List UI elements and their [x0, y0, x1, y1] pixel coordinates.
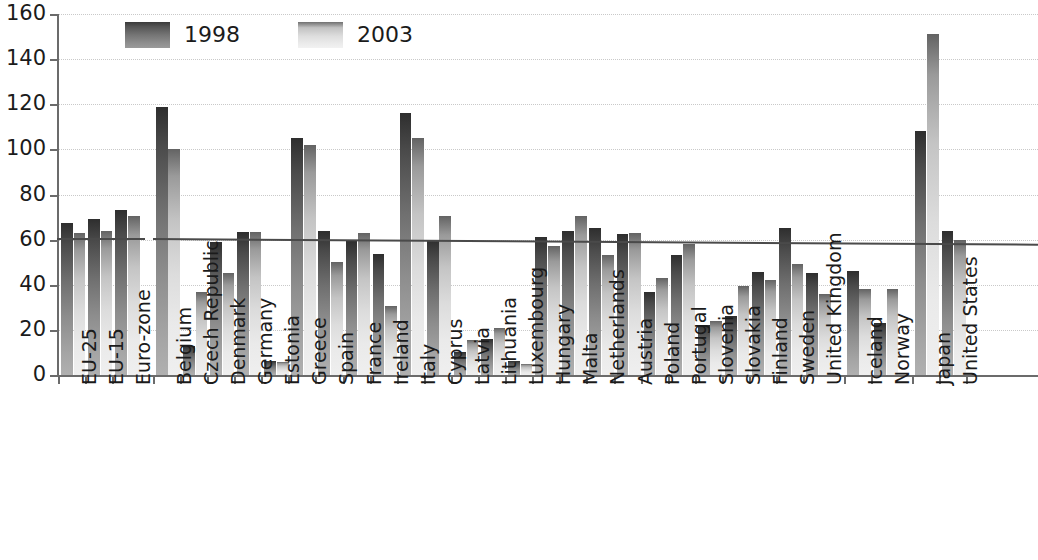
x-axis-label: Denmark: [229, 298, 248, 385]
x-axis-label: Poland: [663, 322, 682, 385]
x-axis-label: Slovenia: [717, 304, 736, 385]
legend-item-2003: 2003: [298, 22, 413, 48]
bar: [927, 34, 939, 375]
legend-item-1998: 1998: [125, 22, 240, 48]
x-axis-label: Estonia: [283, 315, 302, 385]
y-tick-mark: [50, 285, 58, 287]
x-axis-label: Greece: [310, 317, 329, 385]
x-axis-label: Japan: [934, 332, 953, 385]
x-axis-label: France: [365, 322, 384, 385]
x-axis-label: EU-15: [107, 328, 126, 385]
y-tick-mark: [50, 59, 58, 61]
x-axis-label: Belgium: [175, 307, 194, 385]
y-tick-mark: [50, 375, 58, 377]
y-tick-mark: [50, 14, 58, 16]
x-axis-label: Luxembourg: [527, 267, 546, 385]
y-tick-label: 140: [0, 48, 46, 69]
x-axis-label: EU-25: [80, 328, 99, 385]
legend-swatch-2003: [298, 22, 343, 48]
legend-swatch-1998: [125, 22, 170, 48]
x-axis-label: Slovakia: [744, 305, 763, 385]
gridline: [57, 104, 1038, 105]
gridline: [57, 195, 1038, 196]
gridline: [57, 14, 1038, 15]
bar: [156, 107, 168, 375]
x-tick-mark: [58, 375, 60, 384]
x-axis-label: Czech Republic: [202, 240, 221, 385]
bar: [412, 138, 424, 375]
legend-label-2003: 2003: [357, 24, 413, 46]
bar: [915, 131, 927, 375]
bar: [61, 223, 73, 375]
y-tick-label: 160: [0, 3, 46, 24]
y-tick-label: 80: [0, 184, 46, 205]
bar-chart: 020406080100120140160 EU-25EU-15Euro-zon…: [0, 0, 1038, 560]
x-axis-label: Spain: [337, 332, 356, 385]
y-tick-mark: [50, 149, 58, 151]
y-tick-mark: [50, 330, 58, 332]
x-axis-label: Italy: [419, 344, 438, 385]
x-axis-label: Iceland: [866, 316, 885, 385]
reference-line-segment: [57, 238, 145, 240]
y-tick-label: 0: [0, 364, 46, 385]
y-tick-mark: [50, 104, 58, 106]
x-axis-label: Malta: [581, 333, 600, 385]
bar: [847, 271, 859, 375]
x-axis-label: Cyprus: [446, 319, 465, 385]
y-tick-label: 20: [0, 319, 46, 340]
x-axis-label: Euro-zone: [134, 289, 153, 385]
x-axis-label: Lithuania: [500, 297, 519, 385]
x-axis-label: Ireland: [392, 319, 411, 385]
x-axis-label: Finland: [771, 317, 790, 385]
y-tick-label: 40: [0, 274, 46, 295]
chart-legend: 1998 2003: [125, 22, 413, 48]
x-axis-label: United States: [961, 256, 980, 385]
y-tick-label: 60: [0, 229, 46, 250]
x-axis-label: United Kingdom: [825, 232, 844, 385]
x-axis-label: Germany: [256, 298, 275, 385]
gridline: [57, 149, 1038, 150]
gridline: [57, 59, 1038, 60]
x-axis-label: Austria: [636, 318, 655, 385]
x-axis-label: Hungary: [554, 304, 573, 385]
legend-label-1998: 1998: [184, 24, 240, 46]
y-tick-mark: [50, 195, 58, 197]
x-axis-label: Sweden: [798, 310, 817, 385]
x-axis-label: Latvia: [473, 327, 492, 385]
y-tick-label: 120: [0, 93, 46, 114]
x-axis-label: Portugal: [690, 306, 709, 385]
y-tick-label: 100: [0, 138, 46, 159]
x-axis-label: Netherlands: [608, 269, 627, 385]
x-axis-label: Norway: [893, 313, 912, 385]
